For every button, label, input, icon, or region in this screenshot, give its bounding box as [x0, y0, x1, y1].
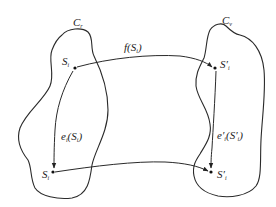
region-cv-outline	[193, 24, 264, 197]
edge-bottom-arrow	[55, 162, 208, 172]
node-spi-bottom-dot	[209, 170, 212, 173]
edge-eprime-arrow	[211, 71, 216, 168]
edge-e-arrow	[54, 71, 73, 168]
node-si-top-dot	[73, 66, 76, 69]
node-spi-top-label: S′i	[220, 58, 230, 71]
edge-f-label: f(Si)	[124, 41, 142, 54]
edge-eprime-label: e′i(S′i)	[217, 129, 243, 142]
edge-f-arrow	[77, 55, 212, 67]
region-cr-label: Cr	[73, 16, 83, 29]
node-si-bottom-label: Si	[42, 168, 50, 181]
node-si-top-label: Si	[62, 55, 70, 68]
node-spi-bottom-label: S′i	[217, 168, 227, 181]
region-cv-label: Cv	[222, 14, 232, 27]
edge-e-label: ei(Si)	[61, 130, 82, 143]
node-si-bottom-dot	[51, 170, 54, 173]
node-spi-top-dot	[213, 66, 216, 69]
diagram-canvas: Cr Cv Si Si S′i S′i f(Si) ei(Si) e′i(S′i…	[0, 0, 276, 207]
